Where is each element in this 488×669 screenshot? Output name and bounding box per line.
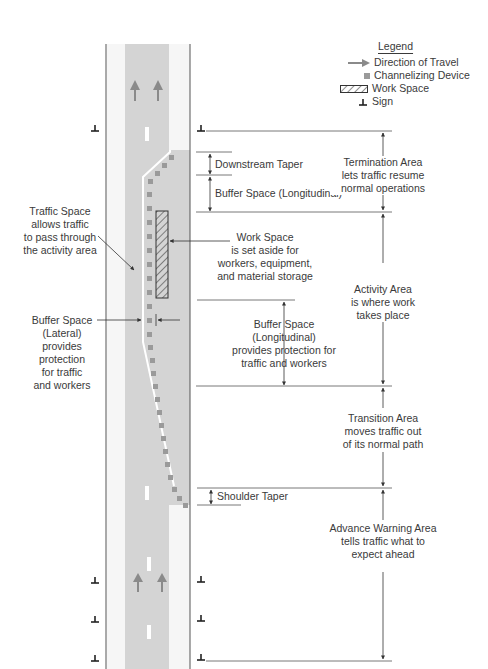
legend-item-sign: Sign — [358, 95, 393, 108]
legend-title: Legend — [378, 40, 413, 52]
advance-warning-area-label: Advance Warning Area tells traffic what … — [326, 522, 440, 561]
lane-dash — [145, 486, 149, 500]
arrow-right-icon — [348, 59, 370, 67]
sign-icon — [358, 98, 368, 106]
traffic-space-label: Traffic Space allows traffic to pass thr… — [20, 205, 100, 257]
lane-dash — [147, 625, 151, 639]
downstream-taper-label: Downstream Taper — [215, 158, 303, 171]
lane-dash — [145, 127, 149, 141]
termination-area-label: Termination Area lets traffic resume nor… — [330, 156, 436, 195]
sign-icon — [197, 125, 205, 660]
closed-lane-area — [169, 150, 190, 505]
shoulder-taper-label: Shoulder Taper — [217, 490, 288, 503]
buffer-longitudinal-label: Buffer Space (Longitudinal) provides pro… — [228, 318, 340, 370]
legend-item-device: Channelizing Device — [364, 69, 470, 82]
lane-dash — [147, 557, 151, 571]
buffer-longitudinal-top-label: Buffer Space (Longitudinal) — [215, 187, 342, 200]
square-icon — [364, 73, 370, 79]
transition-area-label: Transition Area moves traffic out of its… — [330, 412, 436, 451]
legend-item-direction: Direction of Travel — [348, 56, 459, 69]
work-space-label: Work Space is set aside for workers, equ… — [210, 231, 320, 283]
activity-area-label: Activity Area is where work takes place — [340, 283, 426, 322]
hatched-rect-icon — [340, 85, 368, 93]
buffer-lateral-label: Buffer Space (Lateral) provides protecti… — [30, 314, 94, 392]
work-space-area — [156, 211, 168, 298]
legend-item-work-space: Work Space — [340, 82, 429, 95]
reference-lines — [196, 131, 392, 661]
